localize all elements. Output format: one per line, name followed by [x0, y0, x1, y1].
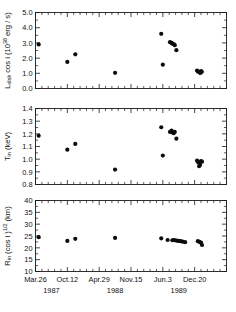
data-point — [159, 236, 163, 240]
ytick-label-bottom-5: 35 — [24, 208, 32, 217]
data-point — [73, 52, 77, 56]
yaxis-title-bottom: Rin (cos i )1/2 (km) — [2, 206, 12, 266]
ytick-label-middle-0: 0.8 — [22, 180, 32, 189]
data-point — [161, 154, 165, 158]
data-points-middle — [37, 125, 205, 171]
xtick-date-label-4: Jun.3 — [154, 275, 172, 284]
panel-middle: 0.80.91.01.11.21.31.4 — [22, 104, 226, 189]
ytick-label-middle-5: 1.3 — [22, 117, 32, 126]
ytick-label-bottom-3: 25 — [24, 232, 32, 241]
data-point — [73, 142, 77, 146]
data-point — [73, 237, 77, 241]
data-point — [174, 48, 178, 52]
ytick-label-middle-1: 0.9 — [22, 168, 32, 177]
ytick-label-top-3: 3.0 — [22, 39, 32, 48]
data-point — [65, 148, 69, 152]
three-panel-scatter-figure: 0.01.02.03.04.05.00.80.91.01.11.21.31.41… — [0, 0, 236, 312]
data-point — [173, 43, 177, 47]
ytick-label-bottom-4: 30 — [24, 220, 32, 229]
data-point — [200, 243, 204, 247]
xaxis-year-label-1: 1988 — [107, 286, 123, 295]
yaxis-title-top: Ldisk cos i (1038 erg / s) — [2, 12, 12, 89]
data-point — [159, 125, 163, 129]
xaxis-labels: Mar.26Oct.12Apr.29Nov.15Jun.3Dec.2019871… — [24, 275, 206, 295]
data-point — [37, 134, 41, 138]
data-point — [113, 236, 117, 240]
ytick-label-bottom-6: 40 — [24, 196, 32, 205]
ytick-label-top-1: 1.0 — [22, 69, 32, 78]
data-point — [183, 240, 187, 244]
xtick-date-label-2: Apr.29 — [88, 275, 109, 284]
ytick-label-top-4: 4.0 — [22, 23, 32, 32]
data-points-top — [37, 32, 204, 75]
data-point — [200, 70, 204, 74]
xtick-date-label-3: Nov.15 — [120, 275, 143, 284]
panel-bottom: 10152025303540 — [24, 196, 226, 276]
yaxis-title-middle-text: Tin (keV) — [3, 131, 13, 161]
data-point — [200, 160, 204, 164]
data-point — [161, 63, 165, 67]
yaxis-title-top-text: Ldisk cos i (1038 erg / s) — [2, 12, 12, 89]
data-point — [113, 167, 117, 171]
data-point — [65, 60, 69, 64]
ytick-label-middle-2: 1.0 — [22, 155, 32, 164]
data-point — [159, 32, 163, 36]
xaxis-year-label-0: 1987 — [43, 286, 59, 295]
ytick-label-top-2: 2.0 — [22, 54, 32, 63]
xtick-date-label-5: Dec.20 — [183, 275, 206, 284]
plot-frame-top — [36, 13, 227, 89]
yaxis-title-middle: Tin (keV) — [3, 131, 13, 161]
xaxis-year-label-2: 1989 — [171, 286, 187, 295]
ytick-label-middle-3: 1.1 — [22, 142, 32, 151]
data-point — [37, 235, 41, 239]
data-point — [166, 238, 170, 242]
xtick-date-label-1: Oct.12 — [56, 275, 78, 284]
data-point — [65, 239, 69, 243]
xtick-date-label-0: Mar.26 — [24, 275, 47, 284]
ytick-label-top-5: 5.0 — [22, 8, 32, 17]
yaxis-title-bottom-text: Rin (cos i )1/2 (km) — [2, 206, 12, 266]
ytick-label-top-0: 0.0 — [22, 84, 32, 93]
data-point — [174, 137, 178, 141]
ytick-label-middle-6: 1.4 — [22, 104, 32, 113]
figure-container: 0.01.02.03.04.05.00.80.91.01.11.21.31.41… — [0, 0, 236, 312]
ytick-label-middle-4: 1.2 — [22, 130, 32, 139]
data-points-bottom — [37, 235, 205, 247]
data-point — [37, 42, 41, 46]
panel-top: 0.01.02.03.04.05.0 — [22, 8, 226, 93]
plot-frame-middle — [36, 109, 227, 185]
ytick-label-bottom-2: 20 — [24, 244, 32, 253]
plot-frame-bottom — [36, 201, 227, 272]
data-point — [113, 71, 117, 75]
ytick-label-bottom-1: 15 — [24, 255, 32, 264]
data-point — [173, 130, 177, 134]
